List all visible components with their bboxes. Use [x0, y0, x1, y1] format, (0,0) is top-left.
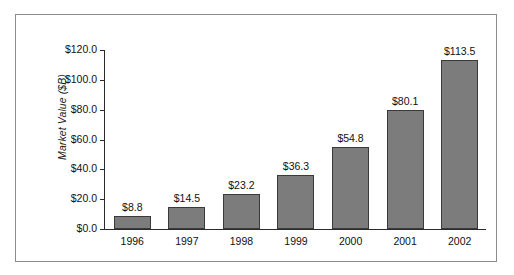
plot-area: $0.0$20.0$40.0$60.0$80.0$100.0$120.0 $8.… — [104, 50, 486, 229]
bar-group: $8.81996 — [105, 50, 160, 229]
x-axis-category-label: 2001 — [378, 235, 433, 247]
x-axis-category-label: 1999 — [269, 235, 324, 247]
y-axis-tick-label: $0.0 — [77, 222, 97, 234]
chart-frame: Market Value ($B) $0.0$20.0$40.0$60.0$80… — [15, 14, 497, 262]
bar-value-label: $113.5 — [432, 45, 487, 57]
bar-group: $23.21998 — [214, 50, 269, 229]
bar — [168, 207, 205, 229]
bar-group: $36.31999 — [269, 50, 324, 229]
bar-value-label: $8.8 — [105, 201, 160, 213]
x-axis-category-label: 1997 — [160, 235, 215, 247]
bar — [441, 60, 478, 229]
bar-group: $54.82000 — [323, 50, 378, 229]
bar-value-label: $23.2 — [214, 179, 269, 191]
bar-value-label: $54.8 — [323, 132, 378, 144]
bar — [223, 194, 260, 229]
bar-group: $113.52002 — [432, 50, 487, 229]
y-axis-tick-label: $100.0 — [65, 73, 97, 85]
bar-group: $14.51997 — [160, 50, 215, 229]
bar — [277, 175, 314, 229]
bar — [387, 110, 424, 229]
y-axis-tick-label: $20.0 — [71, 192, 97, 204]
x-axis-line — [104, 229, 486, 230]
bar — [114, 216, 151, 229]
y-axis-tick-label: $80.0 — [71, 103, 97, 115]
bar-value-label: $36.3 — [269, 160, 324, 172]
x-axis-category-label: 1996 — [105, 235, 160, 247]
bar-value-label: $80.1 — [378, 95, 433, 107]
y-axis-tick-label: $60.0 — [71, 133, 97, 145]
bar — [332, 147, 369, 229]
bar-group: $80.12001 — [378, 50, 433, 229]
bar-value-label: $14.5 — [160, 192, 215, 204]
x-axis-category-label: 2002 — [432, 235, 487, 247]
x-axis-category-label: 2000 — [323, 235, 378, 247]
y-axis-tick-label: $40.0 — [71, 162, 97, 174]
x-axis-category-label: 1998 — [214, 235, 269, 247]
y-axis-tick-label: $120.0 — [65, 43, 97, 55]
y-axis-tick-mark — [100, 229, 105, 230]
